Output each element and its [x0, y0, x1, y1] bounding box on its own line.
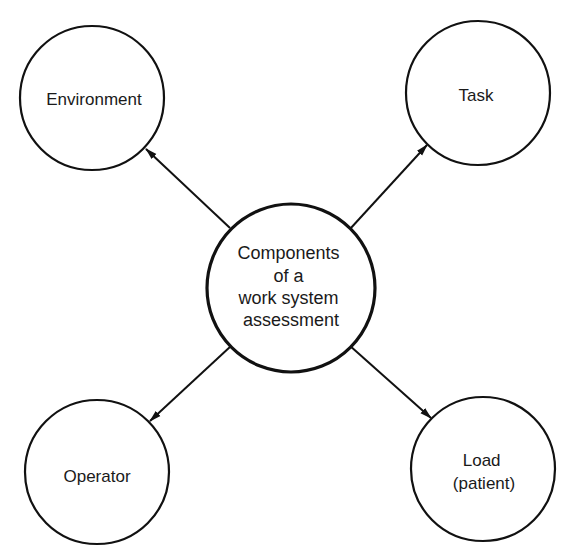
- node-center: Components of a work system assessment: [207, 204, 375, 372]
- arrow-to-environment: [146, 149, 230, 228]
- work-system-assessment-diagram: Environment Task Components of a work sy…: [0, 0, 567, 557]
- arrow-to-load: [349, 345, 431, 418]
- node-operator: Operator: [25, 400, 169, 544]
- arrow-to-task: [350, 145, 427, 229]
- arrow-to-operator: [150, 346, 231, 421]
- center-label-line-1: Components: [237, 243, 339, 263]
- node-task: Task: [406, 21, 550, 165]
- environment-label: Environment: [46, 90, 142, 109]
- task-label: Task: [459, 86, 494, 105]
- center-label-line-2: of a: [273, 266, 304, 286]
- operator-label: Operator: [63, 467, 130, 486]
- node-environment: Environment: [20, 26, 164, 170]
- node-load: Load (patient): [411, 397, 555, 541]
- load-label-line-1: Load: [463, 451, 501, 470]
- load-label-line-2: (patient): [453, 474, 515, 493]
- center-label-line-4: assessment: [243, 310, 339, 330]
- center-label-line-3: work system: [237, 288, 338, 308]
